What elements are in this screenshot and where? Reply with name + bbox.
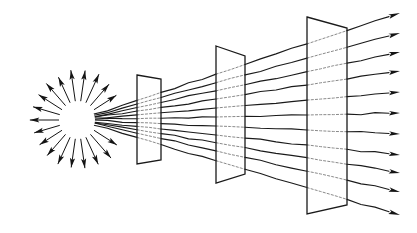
screen-3-face [307, 17, 347, 214]
ray-11-segment [245, 169, 307, 187]
ray-3-segment [347, 54, 389, 63]
ray-3-segment [161, 91, 216, 103]
ray-10-segment [245, 157, 307, 171]
ray-5-arrowhead [389, 91, 400, 96]
point-source-group [30, 70, 117, 168]
ray-6-arrowhead [389, 111, 400, 116]
ray-1-arrowhead [388, 13, 400, 19]
ray-2-arrowhead [388, 33, 400, 38]
ray-1-segment [245, 44, 307, 65]
ray-5-segment [245, 100, 307, 105]
diagram-canvas [0, 0, 417, 233]
source-burst-arrowhead-14 [39, 95, 48, 102]
ray-9-segment [161, 134, 216, 143]
ray-5-segment [161, 108, 216, 113]
source-burst-arrowhead-10 [40, 137, 49, 144]
source-burst-arrowhead-21 [107, 95, 116, 102]
ray-11-segment [347, 199, 389, 211]
ray-2-segment [347, 36, 389, 47]
ray-11-segment [161, 144, 216, 160]
ray-4-arrowhead [389, 70, 400, 75]
ray-9-segment [347, 164, 389, 171]
screen-1-face [137, 75, 161, 164]
ray-10-segment [347, 180, 389, 189]
ray-10-segment [161, 139, 216, 151]
screens-group [137, 17, 347, 214]
source-burst-arrowhead-19 [93, 74, 99, 84]
ray-7-arrowhead [389, 131, 400, 136]
ray-7-segment [347, 131, 389, 133]
ray-7-segment [245, 127, 307, 130]
ray-6-segment [161, 117, 216, 118]
screen-2-face [216, 46, 245, 183]
ray-10-arrowhead [389, 187, 401, 192]
ray-6-segment [347, 113, 389, 115]
ray-9-segment [245, 147, 307, 157]
source-burst-arrowhead-16 [58, 77, 64, 87]
ray-8-segment [347, 149, 389, 154]
ray-4-segment [347, 73, 389, 79]
ray-1-segment [347, 17, 389, 31]
ray-5-segment [347, 93, 389, 97]
source-burst-arrowhead-5 [92, 155, 98, 165]
ray-3-arrowhead [389, 52, 400, 57]
ray-7-segment [161, 124, 216, 126]
optics-ray-diagram [0, 0, 417, 233]
ray-3-segment [245, 72, 307, 85]
ray-8-segment [245, 138, 307, 145]
ray-6-segment [245, 115, 307, 117]
ray-8-arrowhead [389, 152, 400, 157]
ray-11-arrowhead [388, 210, 400, 215]
source-core [61, 103, 95, 137]
ray-9-arrowhead [389, 169, 400, 174]
source-burst-arrowhead-3 [107, 138, 116, 145]
ray-4-segment [245, 85, 307, 94]
source-burst-arrowhead-8 [58, 154, 64, 164]
